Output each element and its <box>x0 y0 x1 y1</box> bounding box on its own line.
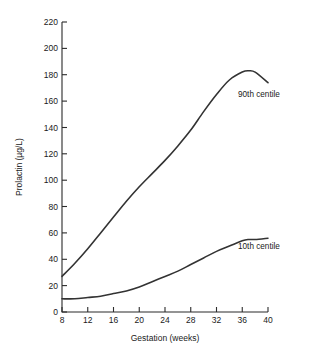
annotation-90th-centile: 90th centile <box>238 90 280 99</box>
x-tick-label: 20 <box>135 315 145 325</box>
x-tick-label: 28 <box>186 315 196 325</box>
x-tick-label: 16 <box>109 315 119 325</box>
y-tick-label: 220 <box>44 17 58 27</box>
y-tick-label: 40 <box>49 254 59 264</box>
y-tick-label: 0 <box>53 307 58 317</box>
y-tick-label: 200 <box>44 43 58 53</box>
x-tick-label: 40 <box>263 315 273 325</box>
x-axis-tick-labels: 8 12 16 20 24 28 32 36 40 <box>60 315 273 325</box>
annotation-10th-centile: 10th centile <box>238 242 280 251</box>
y-tick-label: 160 <box>44 96 58 106</box>
y-axis-title: Prolactin (µg/L) <box>14 138 24 196</box>
y-tick-label: 120 <box>44 149 58 159</box>
x-axis-title: Gestation (weeks) <box>131 333 200 343</box>
y-tick-label: 140 <box>44 123 58 133</box>
chart-figure: 0 20 40 60 80 100 120 140 160 180 200 22… <box>0 0 315 355</box>
x-tick-label: 24 <box>160 315 170 325</box>
y-tick-label: 180 <box>44 70 58 80</box>
x-tick-label: 8 <box>60 315 65 325</box>
prolactin-gestation-line-chart: 0 20 40 60 80 100 120 140 160 180 200 22… <box>0 0 315 355</box>
y-tick-label: 20 <box>49 281 59 291</box>
x-tick-label: 12 <box>83 315 93 325</box>
x-tick-label: 36 <box>238 315 248 325</box>
x-tick-label: 32 <box>212 315 222 325</box>
y-tick-label: 80 <box>49 202 59 212</box>
y-tick-label: 60 <box>49 228 59 238</box>
y-tick-label: 100 <box>44 175 58 185</box>
